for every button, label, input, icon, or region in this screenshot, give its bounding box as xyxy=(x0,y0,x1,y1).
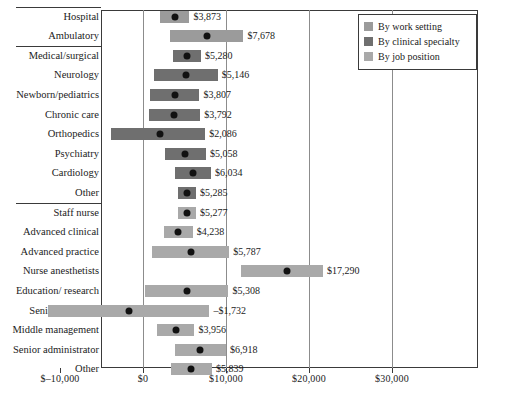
legend-item-work-setting: By work setting xyxy=(364,19,471,34)
legend-swatch-clinical-specialty xyxy=(364,37,373,46)
category-label: Advanced practice xyxy=(3,247,99,258)
point-estimate-dot xyxy=(171,91,178,98)
value-label: $5,839 xyxy=(216,364,244,374)
value-label: $2,086 xyxy=(209,129,237,139)
gridline xyxy=(309,10,310,368)
x-tick-label: $20,000 xyxy=(292,373,326,384)
value-label: $3,792 xyxy=(204,110,232,120)
category-label: Middle management xyxy=(3,325,99,336)
point-estimate-dot xyxy=(171,111,178,118)
category-label: Other xyxy=(3,364,99,375)
legend-swatch-work-setting xyxy=(364,22,373,31)
x-tick-label: $10,000 xyxy=(209,373,243,384)
legend-label-job-position: By job position xyxy=(378,52,440,62)
group-separator xyxy=(16,46,101,47)
category-label: Advanced clinical xyxy=(3,227,99,238)
legend: By work setting By clinical specialty By… xyxy=(358,14,477,70)
category-label: Ambulatory xyxy=(3,31,99,42)
value-label: $3,956 xyxy=(198,325,226,335)
category-label: Psychiatry xyxy=(3,149,99,160)
legend-label-work-setting: By work setting xyxy=(378,22,442,32)
point-estimate-dot xyxy=(181,150,188,157)
legend-label-clinical-specialty: By clinical specialty xyxy=(378,37,460,47)
category-label: Other xyxy=(3,188,99,199)
value-label: $5,787 xyxy=(233,247,261,257)
value-label: $6,918 xyxy=(230,345,258,355)
value-label: $5,058 xyxy=(210,149,238,159)
value-label: $5,280 xyxy=(205,51,233,61)
group-separator xyxy=(16,203,101,204)
legend-item-job-position: By job position xyxy=(364,49,471,64)
point-estimate-dot xyxy=(183,52,190,59)
x-tick-label: $0 xyxy=(138,373,148,384)
value-label: $5,146 xyxy=(222,70,250,80)
point-estimate-dot xyxy=(183,209,190,216)
value-label: $6,034 xyxy=(215,168,243,178)
value-label: –$1,732 xyxy=(213,306,246,316)
group-separator-top xyxy=(16,7,101,8)
point-estimate-dot xyxy=(125,307,132,314)
legend-swatch-job-position xyxy=(364,52,373,61)
category-label: Medical/surgical xyxy=(3,51,99,62)
point-estimate-dot xyxy=(183,189,190,196)
category-label: Newborn/pediatrics xyxy=(3,90,99,101)
point-estimate-dot xyxy=(175,229,182,236)
category-label: Senior administrator xyxy=(3,345,99,356)
category-label: Nurse anesthetists xyxy=(3,266,99,277)
category-label: Neurology xyxy=(3,70,99,81)
point-estimate-dot xyxy=(197,346,204,353)
value-label: $5,308 xyxy=(232,286,260,296)
point-estimate-dot xyxy=(203,33,210,40)
point-estimate-dot xyxy=(283,268,290,275)
point-estimate-dot xyxy=(184,287,191,294)
point-estimate-dot xyxy=(157,131,164,138)
value-label: $5,277 xyxy=(200,208,228,218)
value-label: $3,873 xyxy=(193,12,221,22)
point-estimate-dot xyxy=(172,327,179,334)
point-estimate-dot xyxy=(172,13,179,20)
point-estimate-dot xyxy=(190,170,197,177)
category-label: Staff nurse xyxy=(3,208,99,219)
value-label: $4,238 xyxy=(197,227,225,237)
value-label: $17,290 xyxy=(327,266,360,276)
x-tick-label: $30,000 xyxy=(375,373,409,384)
category-label: Chronic care xyxy=(3,110,99,121)
salary-difference-chart: $–10,000$0$10,000$20,000$30,000 Hospital… xyxy=(0,0,508,408)
point-estimate-dot xyxy=(182,72,189,79)
category-label: Education/ research xyxy=(3,286,99,297)
point-estimate-dot xyxy=(188,366,195,373)
category-label: Cardiology xyxy=(3,168,99,179)
point-estimate-dot xyxy=(188,248,195,255)
value-label: $7,678 xyxy=(247,31,275,41)
category-label: Hospital xyxy=(3,12,99,23)
value-label: $3,807 xyxy=(203,90,231,100)
category-label: Orthopedics xyxy=(3,129,99,140)
legend-item-clinical-specialty: By clinical specialty xyxy=(364,34,471,49)
value-label: $5,285 xyxy=(200,188,228,198)
